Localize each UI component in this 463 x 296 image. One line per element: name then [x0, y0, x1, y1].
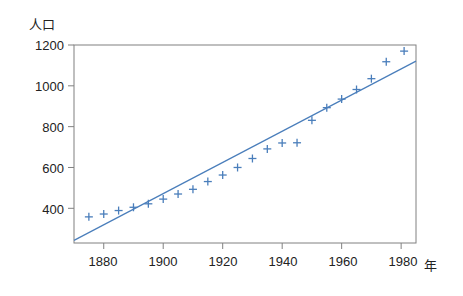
data-point: [382, 58, 390, 66]
data-point: [100, 210, 108, 218]
data-point: [323, 104, 331, 112]
data-point: [293, 139, 301, 147]
data-point: [234, 163, 242, 171]
data-point: [219, 171, 227, 179]
plot-area: [0, 0, 463, 296]
y-axis-ticks: [68, 45, 74, 208]
data-point: [204, 178, 212, 186]
trend-line: [74, 61, 416, 240]
data-point: [248, 154, 256, 162]
trend-line-path: [74, 61, 416, 240]
data-point: [115, 207, 123, 215]
data-point: [367, 75, 375, 83]
data-point: [189, 185, 197, 193]
data-point: [353, 85, 361, 93]
x-axis-ticks: [104, 243, 401, 249]
data-point-markers: [85, 47, 408, 221]
data-point: [174, 190, 182, 198]
population-scatter-chart: 人口 年 1200 1000 800 600 400 1880 1900 192…: [0, 0, 463, 296]
data-point: [400, 47, 408, 55]
data-point: [159, 195, 167, 203]
data-point: [85, 213, 93, 221]
data-point: [263, 145, 271, 153]
data-point: [278, 139, 286, 147]
data-point: [144, 200, 152, 208]
